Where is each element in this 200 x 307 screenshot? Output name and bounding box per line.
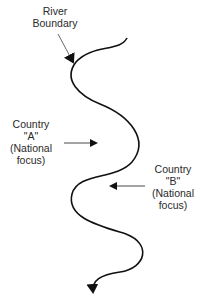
river-label-arrow [58, 34, 73, 62]
country-a-label: Country "A" (National focus) [2, 118, 60, 166]
country-b-label: Country "B" (National focus) [146, 163, 200, 211]
label-line: Country [2, 118, 60, 130]
label-line: River [25, 5, 85, 17]
label-line: focus) [2, 154, 60, 166]
label-line: "B" [146, 175, 200, 187]
label-line: Boundary [25, 17, 85, 29]
label-line: (National [2, 142, 60, 154]
label-line: "A" [2, 130, 60, 142]
label-line: (National [146, 187, 200, 199]
label-line: Country [146, 163, 200, 175]
river-boundary-label: River Boundary [25, 5, 85, 29]
label-line: focus) [146, 199, 200, 211]
river-boundary-line [71, 38, 143, 292]
